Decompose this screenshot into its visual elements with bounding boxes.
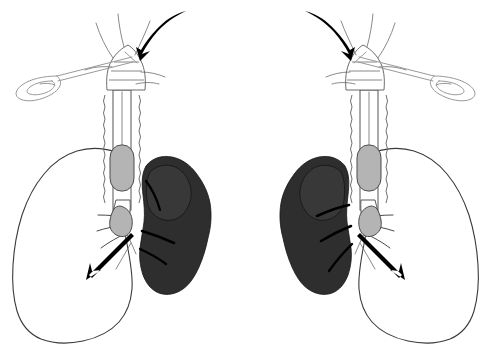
trachea-wall-right [139, 95, 141, 203]
trachea-wall-right [351, 95, 353, 203]
aryepiglottic-fold [367, 14, 373, 47]
instrument-loop-outer [430, 76, 475, 101]
aryepiglottic-fold [118, 14, 124, 47]
epiglottis-left [378, 23, 395, 58]
collapsed-lung-group [140, 156, 211, 294]
figure-root [0, 0, 491, 364]
instrument-loop-outer [16, 76, 61, 101]
instrument-grip-detail [40, 83, 55, 85]
collapsed-lung-group [280, 156, 352, 294]
tracheal-cuff [110, 145, 134, 191]
epiglottis-left [96, 23, 113, 58]
panel-left-lung-ventilated [0, 0, 246, 364]
tracheal-cuff [357, 145, 381, 191]
panel-right-lung-ventilated [245, 0, 491, 364]
instrument-grip-detail [436, 83, 451, 85]
